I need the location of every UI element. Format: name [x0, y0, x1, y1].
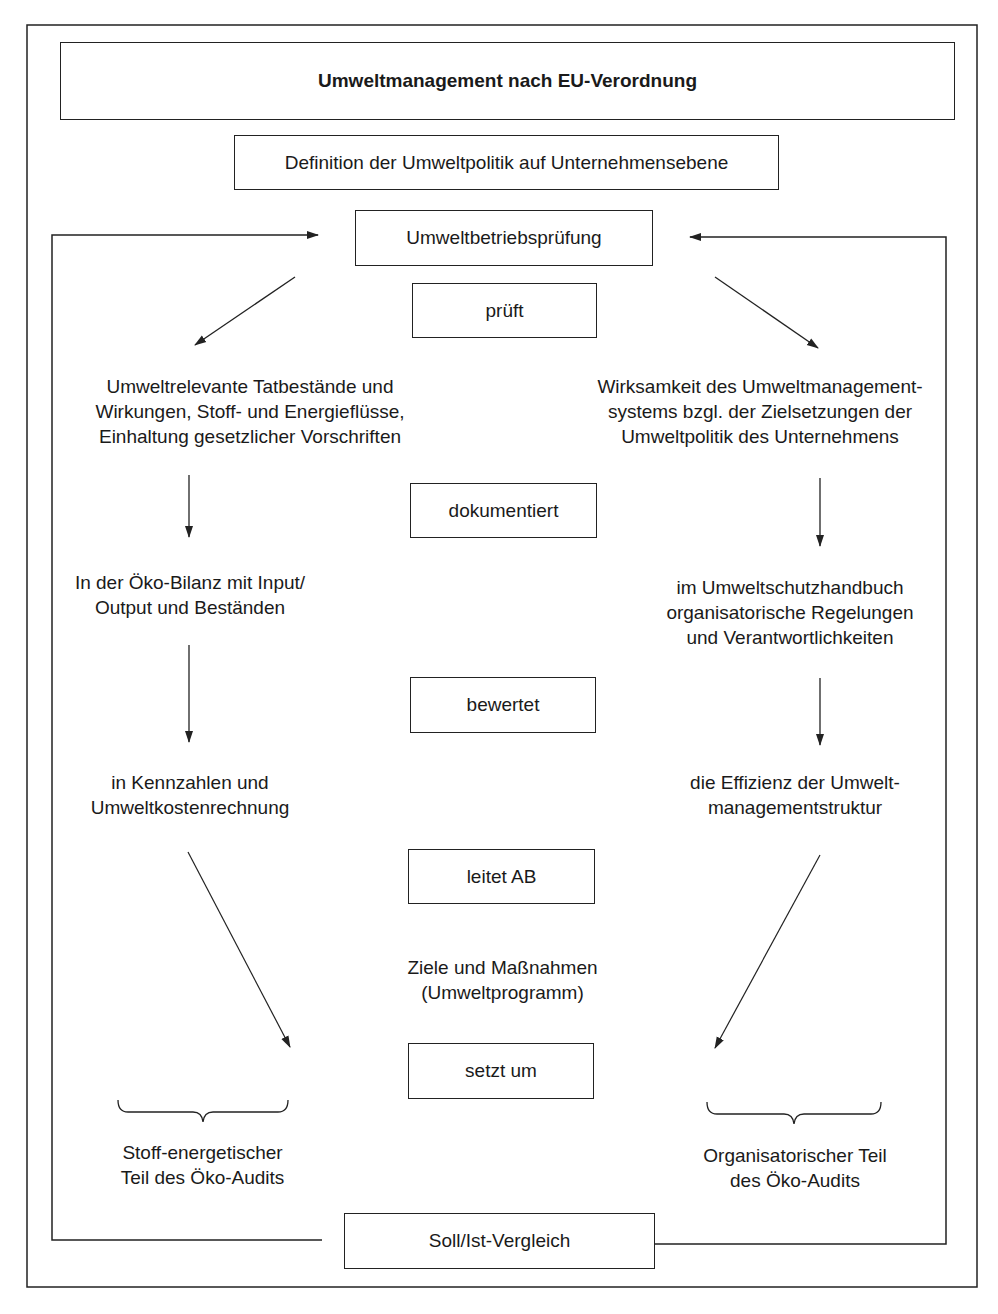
- step-implement-label: setzt um: [465, 1060, 537, 1082]
- arrow-audit-to-right: [715, 277, 818, 348]
- right-evaluated-text: die Effizienz der Umwelt- managementstru…: [665, 770, 925, 820]
- diagram-connectors: [0, 0, 998, 1314]
- step-evaluate-label: bewertet: [467, 694, 540, 716]
- title-box: Umweltmanagement nach EU-Verordnung: [60, 42, 955, 120]
- brace-left: [118, 1100, 288, 1122]
- step-implement-box: setzt um: [408, 1043, 594, 1099]
- audit-box: Umweltbetriebsprüfung: [355, 210, 653, 266]
- step-derive-box: leitet AB: [408, 849, 595, 904]
- left-evaluated-text: in Kennzahlen und Umweltkostenrechnung: [60, 770, 320, 820]
- step-check-label: prüft: [485, 300, 523, 322]
- left-examined-text: Umweltrelevante Tatbestände und Wirkunge…: [75, 374, 425, 449]
- step-document-label: dokumentiert: [449, 500, 559, 522]
- step-check-box: prüft: [412, 283, 597, 338]
- right-examined-text: Wirksamkeit des Umweltmanagement- system…: [560, 374, 960, 449]
- step-document-box: dokumentiert: [410, 483, 597, 538]
- step-evaluate-box: bewertet: [410, 677, 596, 733]
- arrow-left-to-implement: [188, 852, 290, 1047]
- step-derive-label: leitet AB: [467, 866, 537, 888]
- audit-label: Umweltbetriebsprüfung: [406, 227, 601, 249]
- arrow-right-to-implement: [715, 855, 820, 1048]
- definition-box: Definition der Umweltpolitik auf Unterne…: [234, 135, 779, 190]
- comparison-box: Soll/Ist-Vergleich: [344, 1213, 655, 1269]
- comparison-label: Soll/Ist-Vergleich: [429, 1230, 571, 1252]
- diagram-title: Umweltmanagement nach EU-Verordnung: [318, 70, 697, 92]
- right-documented-text: im Umweltschutzhandbuch organisatorische…: [640, 575, 940, 650]
- definition-label: Definition der Umweltpolitik auf Unterne…: [285, 152, 729, 174]
- left-documented-text: In der Öko-Bilanz mit Input/ Output und …: [60, 570, 320, 620]
- right-summary-text: Organisatorischer Teil des Öko-Audits: [680, 1143, 910, 1193]
- brace-right: [707, 1102, 881, 1124]
- goals-text: Ziele und Maßnahmen (Umweltprogramm): [370, 955, 635, 1005]
- arrow-audit-to-left: [195, 277, 295, 345]
- left-summary-text: Stoff-energetischer Teil des Öko-Audits: [100, 1140, 305, 1190]
